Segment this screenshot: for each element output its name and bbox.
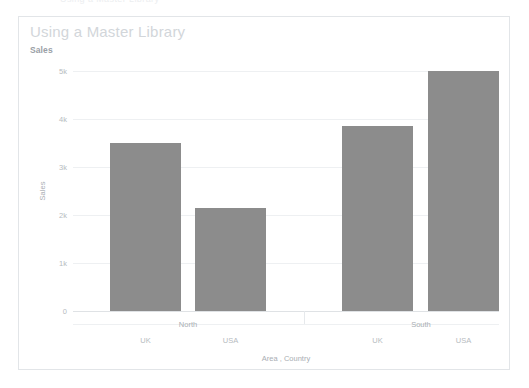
x-axis-category-label: UK <box>372 336 382 345</box>
y-axis-tick-label: 2k <box>59 211 67 220</box>
x-axis-category-label: UK <box>140 336 150 345</box>
bar[interactable] <box>342 126 413 311</box>
bar[interactable] <box>110 143 181 311</box>
y-axis-tick-label: 3k <box>59 163 67 172</box>
bar[interactable] <box>428 71 499 311</box>
x-axis-title: Area , Country <box>262 354 310 363</box>
y-axis-title: Sales <box>38 182 47 201</box>
page-title: Using a Master Library <box>30 23 185 40</box>
x-axis-group-label: South <box>411 320 431 329</box>
bar-chart-plot-area: Sales 01k2k3k4k5k <box>73 71 499 311</box>
y-axis-tick-label: 4k <box>59 115 67 124</box>
x-axis-category-label: USA <box>223 336 238 345</box>
bar[interactable] <box>195 208 266 311</box>
x-axis-group-separator <box>304 311 305 324</box>
y-axis-tick-label: 1k <box>59 259 67 268</box>
visualization-card: Using a Master Library Sales Sales 01k2k… <box>18 16 510 370</box>
x-axis-group-label: North <box>179 320 197 329</box>
x-axis-category-label: USA <box>456 336 471 345</box>
y-axis-tick-label: 5k <box>59 67 67 76</box>
top-ghost-strip: Using a Master Library <box>0 0 529 14</box>
ghost-text: Using a Master Library <box>60 0 159 4</box>
x-axis: Area , Country UKUSAUKUSANorthSouth <box>73 311 499 367</box>
measure-label: Sales <box>30 45 53 55</box>
y-axis-tick-label: 0 <box>63 307 67 316</box>
